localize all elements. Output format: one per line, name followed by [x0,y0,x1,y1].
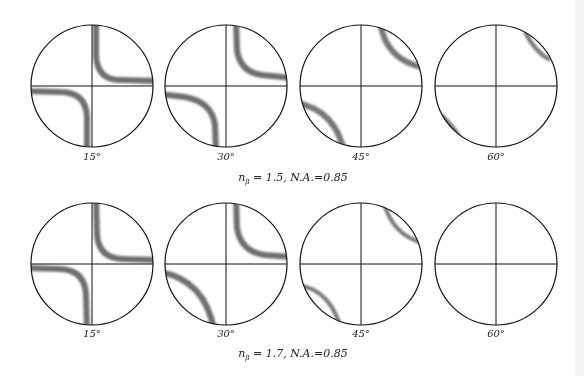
angle-label: 15° [83,151,101,162]
angle-label: 60° [487,328,505,339]
angle-label: 30° [217,328,235,339]
angle-label: 30° [217,151,235,162]
panel-top-60 [435,25,557,147]
figure: 15° 30° 45° 60° nβ = 1.5, N.A.=0.85 15° … [0,0,584,376]
panel-top-45 [297,20,425,155]
caption-text: = 1.7, N.A.=0.85 [253,347,348,360]
angle-label: 60° [487,151,505,162]
row-caption: nβ = 1.5, N.A.=0.85 [238,171,347,186]
conoscopic-figures [0,0,584,376]
panel-bottom-15 [24,198,160,330]
panel-bottom-30 [160,198,292,330]
caption-subscript: β [245,354,249,362]
angle-label: 45° [352,151,370,162]
row-caption: nβ = 1.7, N.A.=0.85 [238,347,347,362]
panel-bottom-45 [298,200,424,333]
panel-top-15 [24,20,160,152]
caption-subscript: β [245,178,249,186]
page-edge [575,0,584,376]
panel-bottom-60 [435,203,557,325]
caption-text: = 1.5, N.A.=0.85 [253,171,348,184]
angle-label: 45° [352,328,370,339]
angle-label: 15° [83,328,101,339]
panel-top-30 [160,20,292,152]
